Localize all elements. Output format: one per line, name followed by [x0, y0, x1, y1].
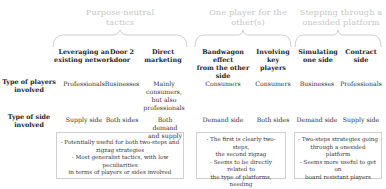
column-header-contract: Contract side [340, 48, 382, 64]
column-header-line: Bandwagon effect [192, 48, 254, 64]
column-header-line: side [340, 56, 382, 64]
group-title-line: Stepping through a [296, 7, 386, 17]
cell-side-bandwagon: Demand side [192, 116, 254, 124]
row-label-line: Type of side [2, 113, 56, 121]
note-purpose-neutral: - Potentially useful for both two-steps … [56, 132, 184, 179]
group-title-purpose-neutral: Purpose-neutral tactics [80, 7, 160, 27]
column-header-line: key players [254, 56, 292, 72]
column-header-line: Door 2 [104, 48, 140, 56]
column-header-line: Simulating [296, 48, 340, 56]
cell-side-involving: Both sides [250, 116, 296, 124]
row-label-line: involved [2, 121, 56, 129]
note-line: - Most generalist tactics, with low pecu… [60, 154, 180, 169]
column-header-door2door: Door 2 door [104, 48, 140, 64]
cell-side-door2door: Both sides [100, 116, 144, 124]
brace-icon [194, 30, 292, 48]
column-header-bandwagon: Bandwagon effect from the other side [192, 48, 254, 80]
column-header-direct-marketing: Direct marketing [140, 48, 186, 64]
brace-icon [294, 30, 382, 48]
group-title-line: other(s) [205, 17, 291, 27]
column-header-line: door [104, 56, 140, 64]
brace-icon [52, 30, 188, 48]
column-header-line: from the other side [192, 64, 254, 80]
group-title-line: Purpose-neutral [80, 7, 160, 17]
cell-players-simulating: Businesses [294, 80, 340, 88]
column-header-line: Contract [340, 48, 382, 56]
group-title-one-player: One player for the other(s) [205, 7, 291, 27]
cell-players-contract: Professionals [336, 80, 386, 88]
row-label-type-of-side: Type of side involved [2, 113, 56, 129]
group-title-stepping-through: Stepping through a onesided platform [296, 7, 386, 27]
cell-players-door2door: Businesses [100, 80, 144, 88]
note-line: in terms of players or sides involved [60, 169, 180, 177]
group-title-line: tactics [80, 17, 160, 27]
column-header-line: marketing [140, 56, 186, 64]
cell-players-direct-marketing: Mainly consumers, but also professionals [143, 80, 185, 112]
column-header-line: Direct [140, 48, 186, 56]
note-line: - Two-steps strategies going [298, 136, 378, 144]
column-header-simulating: Simulating one side [296, 48, 340, 64]
cell-side-simulating: Demand side [294, 116, 340, 124]
note-line: - Potentially useful for both two-steps … [60, 139, 180, 147]
note-line: the second zigzag [200, 151, 282, 159]
note-line: - Seems to be directly related to [200, 159, 282, 174]
note-stepping-through: - Two-steps strategies going through a o… [294, 132, 382, 179]
note-line: board resistant players [298, 174, 378, 182]
cell-players-involving: Consumers [250, 80, 296, 88]
column-header-involving: Involving key players [254, 48, 292, 72]
note-line: - Seems more useful to get on [298, 159, 378, 174]
note-line: - The first is clearly two-steps, [200, 136, 282, 151]
note-one-player: - The first is clearly two-steps, the se… [196, 132, 286, 179]
row-label-line: Type of players [2, 78, 56, 86]
note-line: platform [298, 151, 378, 159]
row-label-type-of-players: Type of players involved [2, 78, 56, 94]
note-line: the type of platforms, needing [200, 174, 282, 189]
group-title-line: One player for the [205, 7, 291, 17]
group-title-line: onesided platform [296, 17, 386, 27]
column-header-line: one side [296, 56, 340, 64]
note-line: zigzag strategies [60, 147, 180, 155]
note-line: through a onesided [298, 144, 378, 152]
column-header-line: Involving [254, 48, 292, 56]
row-label-line: involved [2, 86, 56, 94]
cell-players-bandwagon: Consumers [192, 80, 254, 88]
cell-side-contract: Supply side [336, 116, 386, 124]
